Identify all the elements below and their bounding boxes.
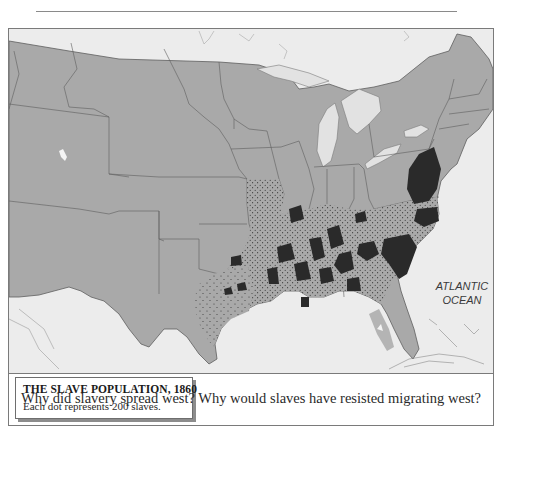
caption-question: Why did slavery spread west? Why would s… — [9, 390, 493, 407]
atlantic-ocean-label: ATLANTIC OCEAN — [427, 279, 493, 307]
us-map-graphic — [9, 29, 493, 373]
map-figure: ATLANTIC OCEAN GULF OF MEXICO 0 300 Mile… — [8, 28, 494, 426]
atlantic-label-line2: OCEAN — [427, 293, 493, 307]
atlantic-label-line1: ATLANTIC — [427, 279, 493, 293]
caption-area: Why did slavery spread west? Why would s… — [9, 374, 493, 425]
top-rule — [36, 11, 457, 12]
slave-population-map: ATLANTIC OCEAN GULF OF MEXICO 0 300 Mile… — [9, 29, 493, 374]
